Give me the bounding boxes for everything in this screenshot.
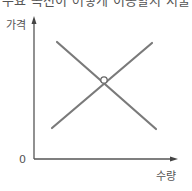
demand-curve [57,42,156,129]
y-axis-label: 가격 [6,16,26,32]
equilibrium-point-icon [101,77,107,83]
x-axis-label: 수량 [156,167,176,183]
diagram-canvas [0,0,192,191]
x-axis-arrow-icon [170,157,178,162]
y-axis-arrow-icon [32,16,37,24]
origin-label: 0 [19,153,26,166]
supply-curve [52,43,152,128]
